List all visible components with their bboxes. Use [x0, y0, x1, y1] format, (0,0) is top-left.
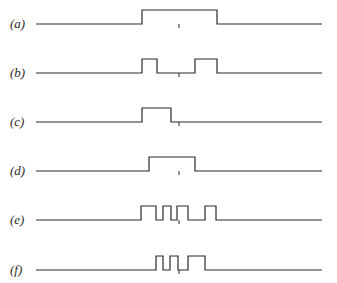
row-label-b: (b) [10, 66, 25, 80]
pulse-train-b [36, 59, 322, 73]
row-label-c: (c) [10, 115, 24, 129]
pulse-train-f [36, 256, 322, 270]
pulse-train-figure: (a) (b) (c) (d) (e) (f) [0, 0, 337, 283]
pulse-train-c [36, 108, 322, 122]
pulse-train-d [36, 157, 322, 171]
row-label-d: (d) [10, 164, 25, 178]
row-label-e: (e) [10, 213, 24, 227]
row-label-f: (f) [10, 263, 22, 277]
pulse-diagram-canvas [0, 0, 337, 283]
pulse-train-a [36, 10, 322, 24]
pulse-train-e [36, 206, 322, 220]
row-label-a: (a) [10, 17, 25, 31]
